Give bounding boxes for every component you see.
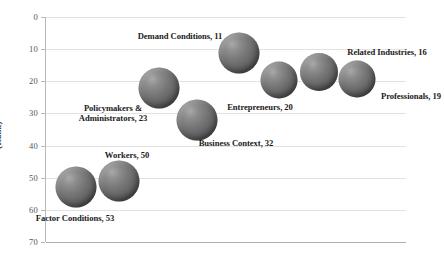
bubble-related-industries[interactable]	[300, 53, 338, 91]
y-tick-label-30: 30	[8, 109, 38, 118]
bubble-factor-conditions[interactable]	[56, 167, 97, 208]
y-tick-mark-70	[41, 242, 45, 243]
y-tick-label-50: 50	[8, 173, 38, 182]
bubble-entrepreneurs[interactable]	[261, 62, 298, 99]
y-tick-label-10: 10	[8, 45, 38, 54]
gridline-70	[46, 242, 406, 243]
data-label-line-2: Administrators, 23	[53, 113, 173, 123]
data-label-professionals: Professionals, 19	[381, 91, 441, 101]
bubble-business-context[interactable]	[177, 100, 218, 141]
data-label-policymakers-administrators: Policymakers &Administrators, 23	[53, 103, 173, 124]
y-tick-label-60: 60	[8, 206, 38, 215]
bubble-workers[interactable]	[99, 161, 140, 202]
y-tick-label-20: 20	[8, 77, 38, 86]
gridline-60	[46, 210, 406, 211]
y-axis-title: (Rank)	[0, 121, 3, 148]
data-label-demand-conditions: Demand Conditions, 11	[138, 31, 223, 41]
data-label-workers: Workers, 50	[105, 150, 149, 160]
bubble-chart: (Rank) 010203040506070 Factor Conditions…	[0, 0, 444, 260]
y-tick-label-40: 40	[8, 141, 38, 150]
data-label-business-context: Business Context, 32	[199, 138, 274, 148]
bubble-demand-conditions[interactable]	[219, 33, 260, 74]
data-label-entrepreneurs: Entrepreneurs, 20	[227, 102, 293, 112]
y-tick-label-0: 0	[8, 13, 38, 22]
gridline-0	[46, 17, 406, 18]
data-label-line-1: Policymakers &	[53, 103, 173, 113]
y-tick-label-70: 70	[8, 238, 38, 247]
data-label-factor-conditions: Factor Conditions, 53	[36, 213, 114, 223]
bubble-professionals[interactable]	[339, 61, 376, 98]
data-label-related-industries: Related Industries, 16	[347, 47, 426, 57]
